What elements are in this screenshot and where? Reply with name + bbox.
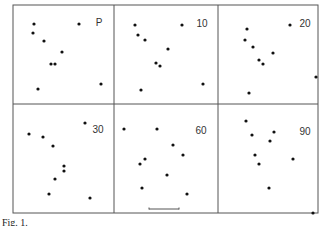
data-point: [36, 87, 39, 90]
data-point: [267, 186, 270, 189]
data-point: [201, 82, 204, 85]
data-point: [268, 139, 271, 142]
data-point: [88, 196, 91, 199]
data-point: [139, 88, 142, 91]
data-point: [155, 127, 158, 130]
data-point: [253, 153, 256, 156]
data-point: [32, 22, 35, 25]
data-point: [271, 51, 274, 54]
figure-caption: Fig. 1.: [2, 217, 331, 226]
panel-grid: P1020306090: [0, 0, 331, 216]
frame-border: [13, 5, 318, 213]
data-point: [77, 22, 80, 25]
data-point: [288, 23, 291, 26]
data-point: [257, 162, 260, 165]
data-point: [247, 91, 250, 94]
data-point: [158, 64, 161, 67]
data-point: [49, 62, 52, 65]
data-point: [314, 75, 317, 78]
data-point: [243, 38, 246, 41]
panel-label: P: [96, 17, 103, 28]
data-point: [47, 192, 50, 195]
panel-label: 90: [299, 126, 311, 137]
figure: P1020306090: [0, 0, 331, 226]
panel-label: 60: [195, 125, 207, 136]
data-point: [41, 135, 44, 138]
panel-label: 20: [299, 18, 311, 29]
data-point: [143, 157, 146, 160]
data-point: [53, 62, 56, 65]
data-point: [140, 186, 143, 189]
data-point: [143, 38, 146, 41]
data-point: [99, 82, 102, 85]
data-point: [257, 58, 260, 61]
panel-label: 30: [92, 124, 104, 135]
panel-label: 10: [196, 18, 208, 29]
data-point: [62, 164, 65, 167]
data-point: [138, 162, 141, 165]
data-point: [136, 33, 139, 36]
data-point: [181, 153, 184, 156]
data-point: [154, 61, 157, 64]
data-point: [166, 47, 169, 50]
data-point: [27, 132, 30, 135]
data-point: [180, 23, 183, 26]
data-point: [42, 39, 45, 42]
data-point: [245, 27, 248, 30]
data-point: [53, 177, 56, 180]
data-point: [261, 62, 264, 65]
data-point: [244, 119, 247, 122]
data-point: [31, 31, 34, 34]
data-point: [62, 169, 65, 172]
data-point: [272, 130, 275, 133]
data-point: [251, 45, 254, 48]
data-point: [165, 173, 168, 176]
data-point: [291, 157, 294, 160]
data-point: [122, 127, 125, 130]
data-point: [311, 211, 314, 214]
data-point: [83, 121, 86, 124]
data-point: [51, 144, 54, 147]
data-point: [60, 50, 63, 53]
data-point: [185, 192, 188, 195]
data-point: [171, 143, 174, 146]
data-point: [250, 133, 253, 136]
data-point: [133, 23, 136, 26]
